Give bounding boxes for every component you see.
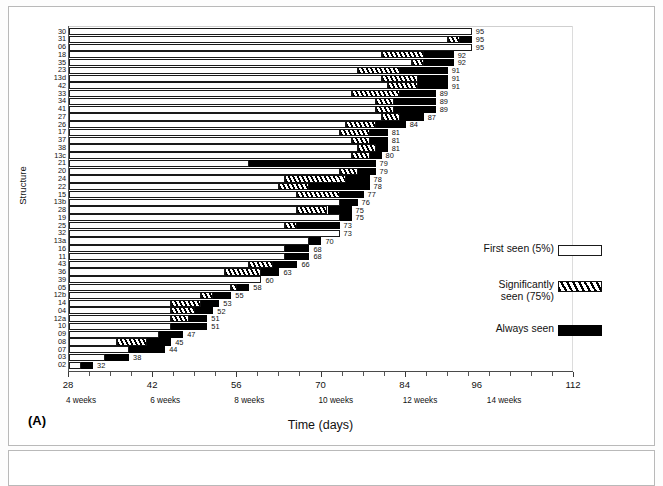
- bar-value-label: 95: [476, 44, 484, 51]
- bar-segment-first-seen: [69, 331, 159, 338]
- x-axis-major-tick: [236, 372, 237, 377]
- bar-value-label: 44: [169, 346, 177, 353]
- bar-segment-first-seen: [69, 206, 297, 213]
- x-axis-minor-tick: [131, 372, 132, 376]
- x-axis-minor-tick: [278, 372, 279, 376]
- bar-row: 91: [69, 67, 574, 74]
- x-axis-minor-tick: [257, 372, 258, 376]
- bar-segment-first-seen: [69, 338, 117, 345]
- legend-swatch-solid-black-box: [558, 325, 602, 336]
- bar-segment-always-seen: [105, 354, 129, 361]
- bar-segment-first-seen: [69, 222, 285, 229]
- bar-row: 81: [69, 137, 574, 144]
- bar-segment-always-seen: [400, 90, 436, 97]
- bar-row: 81: [69, 144, 574, 151]
- bar-row: 95: [69, 36, 574, 43]
- bar-segment-significantly-seen: [412, 59, 424, 66]
- x-axis-minor-tick: [342, 372, 343, 376]
- x-axis-tick-label: 96: [472, 379, 483, 390]
- bar-row: 95: [69, 44, 574, 51]
- bar-segment-significantly-seen: [171, 315, 189, 322]
- bar-segment-significantly-seen: [358, 144, 376, 151]
- bar-segment-first-seen: [69, 160, 249, 167]
- bar-value-label: 89: [440, 106, 448, 113]
- bar-row: 81: [69, 129, 574, 136]
- bar-value-label: 87: [428, 114, 436, 121]
- x-axis-tick-label: 112: [565, 379, 580, 390]
- bar-segment-always-seen: [309, 237, 321, 244]
- bar-segment-always-seen: [189, 315, 207, 322]
- y-axis-tick-label: 19: [58, 214, 66, 221]
- bar-segment-first-seen: [69, 75, 382, 82]
- x-axis-major-tick: [152, 372, 153, 377]
- bar-row: 78: [69, 175, 574, 182]
- bar-value-label: 75: [356, 214, 364, 221]
- bar-segment-always-seen: [81, 362, 93, 369]
- bar-segment-first-seen: [69, 354, 105, 361]
- bar-segment-always-seen: [394, 106, 436, 113]
- bar-segment-significantly-seen: [297, 206, 327, 213]
- bar-segment-significantly-seen: [376, 106, 394, 113]
- bar-segment-first-seen: [69, 106, 376, 113]
- bar-segment-first-seen: [69, 129, 340, 136]
- legend-item-label: First seen (5%): [446, 243, 554, 255]
- y-axis-tick-label: 16: [58, 245, 66, 252]
- bar-row: 79: [69, 160, 574, 167]
- bar-segment-first-seen: [69, 90, 352, 97]
- bar-segment-always-seen: [273, 261, 297, 268]
- bar-segment-always-seen: [261, 268, 279, 275]
- bar-segment-first-seen: [69, 183, 279, 190]
- bar-segment-first-seen: [69, 175, 285, 182]
- bar-segment-significantly-seen: [225, 268, 261, 275]
- bar-row: 87: [69, 113, 574, 120]
- bar-row: 95: [69, 28, 574, 35]
- bar-segment-significantly-seen: [171, 307, 195, 314]
- bar-segment-always-seen: [460, 36, 472, 43]
- bar-segment-first-seen: [69, 230, 340, 237]
- x-axis-tick-label: 84: [399, 379, 410, 390]
- bar-row: 89: [69, 98, 574, 105]
- bar-segment-always-seen: [370, 129, 388, 136]
- x-axis-minor-tick: [194, 372, 195, 376]
- bar-segment-first-seen: [69, 268, 225, 275]
- y-axis-tick-label: 02: [58, 361, 66, 368]
- legend-swatch-diagonal-hatch-box: [558, 281, 602, 292]
- bar-row: 91: [69, 75, 574, 82]
- bar-segment-significantly-seen: [201, 292, 213, 299]
- bar-segment-significantly-seen: [352, 152, 370, 159]
- bar-segment-always-seen: [376, 121, 406, 128]
- bar-segment-significantly-seen: [388, 82, 418, 89]
- bar-row: 92: [69, 51, 574, 58]
- bar-value-label: 84: [410, 121, 418, 128]
- bar-row: 38: [69, 354, 574, 361]
- bar-row: 75: [69, 214, 574, 221]
- bar-segment-first-seen: [69, 300, 171, 307]
- bar-segment-always-seen: [346, 175, 370, 182]
- bar-segment-always-seen: [171, 323, 207, 330]
- bar-segment-always-seen: [400, 67, 448, 74]
- y-axis-title: Structure: [17, 141, 28, 231]
- x-axis-minor-tick: [89, 372, 90, 376]
- bar-segment-first-seen: [69, 36, 448, 43]
- x-axis-minor-tick: [531, 372, 532, 376]
- panel-label-a: (A): [28, 413, 46, 428]
- bar-value-label: 68: [313, 253, 321, 260]
- bar-row: 78: [69, 183, 574, 190]
- figure-panel-b-partial: [8, 450, 655, 486]
- x-axis-minor-tick: [110, 372, 111, 376]
- bar-segment-first-seen: [69, 362, 81, 369]
- legend-item: Always seen: [452, 323, 602, 349]
- y-axis-tick-label: 22: [58, 183, 66, 190]
- bar-segment-significantly-seen: [297, 191, 339, 198]
- x-axis-major-tick: [573, 372, 574, 377]
- bar-segment-first-seen: [69, 214, 340, 221]
- bar-segment-first-seen: [69, 51, 382, 58]
- bar-segment-first-seen: [69, 44, 472, 51]
- bar-row: 92: [69, 59, 574, 66]
- bar-row: 89: [69, 90, 574, 97]
- bar-segment-always-seen: [358, 168, 376, 175]
- bar-value-label: 91: [452, 83, 460, 90]
- x-axis-minor-tick: [299, 372, 300, 376]
- bar-segment-always-seen: [424, 51, 454, 58]
- x-axis-minor-tick: [447, 372, 448, 376]
